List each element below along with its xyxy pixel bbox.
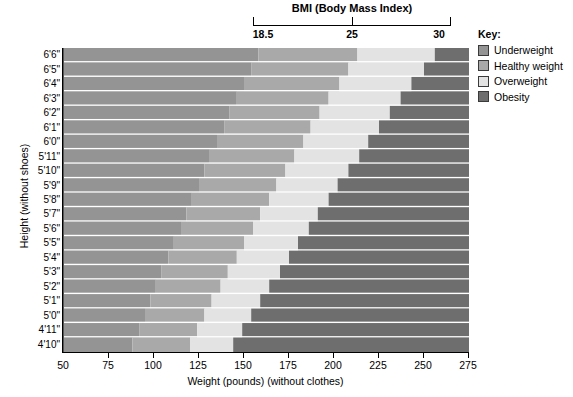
band-obesity xyxy=(251,309,469,323)
row-separator xyxy=(64,162,469,163)
band-healthy-weight xyxy=(230,106,320,120)
band-healthy-weight xyxy=(150,294,211,308)
band-obesity xyxy=(280,265,469,279)
band-healthy-weight xyxy=(168,251,236,265)
row-separator xyxy=(64,220,469,221)
band-obesity xyxy=(329,193,469,207)
legend-swatch xyxy=(478,76,489,87)
band-healthy-weight xyxy=(210,149,295,163)
band-healthy-weight xyxy=(174,236,244,250)
y-axis-tick-label: 5'3" xyxy=(4,266,60,277)
x-axis-tick xyxy=(288,353,289,358)
band-obesity xyxy=(318,207,469,221)
x-axis-tick-label: 75 xyxy=(88,359,128,371)
y-axis-tick-label: 6'2" xyxy=(4,107,60,118)
x-axis-tick xyxy=(153,353,154,358)
legend-items: UnderweightHealthy weightOverweightObesi… xyxy=(478,44,573,103)
row-separator xyxy=(64,293,469,294)
band-obesity xyxy=(379,120,469,134)
row-separator xyxy=(64,322,469,323)
legend-item: Underweight xyxy=(478,44,573,56)
x-axis-tick xyxy=(423,353,424,358)
band-underweight xyxy=(64,222,181,236)
legend-item: Obesity xyxy=(478,91,573,103)
band-underweight xyxy=(64,338,132,352)
x-axis-tick-label: 250 xyxy=(403,359,443,371)
row-separator xyxy=(64,278,469,279)
row-separator xyxy=(64,307,469,308)
y-axis-tick-label: 5'6" xyxy=(4,223,60,234)
row-separator xyxy=(64,133,469,134)
band-overweight xyxy=(339,77,411,91)
band-overweight xyxy=(294,149,359,163)
band-overweight xyxy=(269,193,328,207)
y-axis-tick-label: 6'6" xyxy=(4,49,60,60)
x-axis-tick xyxy=(378,353,379,358)
x-axis-tick-label: 100 xyxy=(133,359,173,371)
legend-title: Key: xyxy=(478,28,573,40)
y-axis-labels: Height (without shoes) 6'6"6'5"6'4"6'3"6… xyxy=(0,0,60,397)
row-separator xyxy=(64,249,469,250)
band-healthy-weight xyxy=(140,323,198,337)
row-separator xyxy=(64,90,469,91)
y-axis-tick-label: 5'9" xyxy=(4,180,60,191)
legend-swatch xyxy=(478,45,489,56)
band-obesity xyxy=(435,48,469,62)
band-obesity xyxy=(289,251,469,265)
band-overweight xyxy=(276,178,337,192)
band-healthy-weight xyxy=(192,193,269,207)
y-axis-tick-label: 4'11" xyxy=(4,324,60,335)
band-healthy-weight xyxy=(186,207,260,221)
legend-label: Underweight xyxy=(494,44,553,56)
y-axis-tick-label: 6'3" xyxy=(4,93,60,104)
legend-label: Overweight xyxy=(494,75,547,87)
legend-item: Healthy weight xyxy=(478,60,573,72)
band-healthy-weight xyxy=(156,280,221,294)
y-axis-tick-label: 6'0" xyxy=(4,136,60,147)
y-axis-tick-label: 5'1" xyxy=(4,295,60,306)
band-overweight xyxy=(204,309,251,323)
band-obesity xyxy=(298,236,469,250)
band-healthy-weight xyxy=(258,48,357,62)
row-separator xyxy=(64,119,469,120)
x-axis-tick xyxy=(108,353,109,358)
band-underweight xyxy=(64,48,258,62)
x-axis-tick xyxy=(198,353,199,358)
row-separator xyxy=(64,191,469,192)
band-obesity xyxy=(338,178,469,192)
band-obesity xyxy=(424,62,469,76)
band-healthy-weight xyxy=(204,164,285,178)
bmi-tick-label-18-5: 18.5 xyxy=(233,28,293,40)
band-obesity xyxy=(309,222,469,236)
band-obesity xyxy=(260,294,469,308)
band-overweight xyxy=(212,294,261,308)
y-axis-tick-label: 6'1" xyxy=(4,122,60,133)
band-overweight xyxy=(221,280,270,294)
band-overweight xyxy=(357,48,434,62)
y-axis-tick-label: 5'4" xyxy=(4,252,60,263)
band-overweight xyxy=(348,62,424,76)
x-axis-tick-label: 125 xyxy=(178,359,218,371)
x-axis-tick-label: 175 xyxy=(268,359,308,371)
row-separator xyxy=(64,148,469,149)
band-underweight xyxy=(64,106,230,120)
bmi-tick-label-30: 30 xyxy=(409,28,469,40)
band-healthy-weight xyxy=(217,135,303,149)
row-separator xyxy=(64,206,469,207)
row-separator xyxy=(64,105,469,106)
row-separator xyxy=(64,336,469,337)
row-separator xyxy=(64,76,469,77)
band-healthy-weight xyxy=(161,265,228,279)
band-underweight xyxy=(64,164,204,178)
band-obesity xyxy=(269,280,469,294)
band-underweight xyxy=(64,77,244,91)
band-underweight xyxy=(64,309,145,323)
bmi-scale-title: BMI (Body Mass Index) xyxy=(232,2,472,14)
band-underweight xyxy=(64,323,140,337)
x-axis-tick-label: 225 xyxy=(358,359,398,371)
band-underweight xyxy=(64,178,199,192)
band-overweight xyxy=(311,120,379,134)
band-overweight xyxy=(244,236,298,250)
band-healthy-weight xyxy=(132,338,190,352)
band-underweight xyxy=(64,294,150,308)
